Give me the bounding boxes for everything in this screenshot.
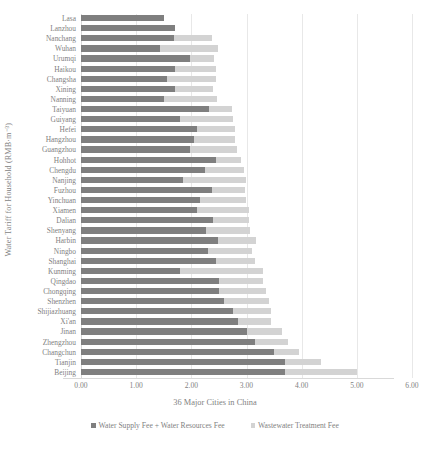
bar-row[interactable] <box>81 54 412 64</box>
bar-segment-series-2[interactable] <box>175 86 214 92</box>
bar-segment-series-2[interactable] <box>175 66 216 72</box>
bar-row[interactable] <box>81 166 412 176</box>
bar-segment-series-1[interactable] <box>81 35 174 41</box>
bar-segment-series-1[interactable] <box>81 349 274 355</box>
bar-segment-series-2[interactable] <box>180 116 232 122</box>
bar-segment-series-1[interactable] <box>81 339 255 345</box>
bar-segment-series-2[interactable] <box>206 227 250 233</box>
bar-segment-series-1[interactable] <box>81 146 190 152</box>
bar-row[interactable] <box>81 206 412 216</box>
bar-row[interactable] <box>81 24 412 34</box>
bar-row[interactable] <box>81 65 412 75</box>
bar-segment-series-2[interactable] <box>255 339 288 345</box>
bar-row[interactable] <box>81 287 412 297</box>
bar-segment-series-1[interactable] <box>81 268 180 274</box>
legend-item[interactable]: Water Supply Fee + Water Resources Fee <box>91 421 224 430</box>
bar-row[interactable] <box>81 145 412 155</box>
bar-segment-series-1[interactable] <box>81 136 194 142</box>
bar-segment-series-2[interactable] <box>212 187 245 193</box>
bar-segment-series-1[interactable] <box>81 96 164 102</box>
bar-segment-series-1[interactable] <box>81 288 219 294</box>
bar-segment-series-1[interactable] <box>81 86 175 92</box>
bar-segment-series-2[interactable] <box>247 328 283 334</box>
bar-segment-series-2[interactable] <box>167 76 217 82</box>
bar-row[interactable] <box>81 277 412 287</box>
bar-segment-series-1[interactable] <box>81 197 200 203</box>
bar-row[interactable] <box>81 317 412 327</box>
bar-segment-series-1[interactable] <box>81 258 216 264</box>
bar-row[interactable] <box>81 226 412 236</box>
bar-segment-series-1[interactable] <box>81 177 183 183</box>
bar-row[interactable] <box>81 236 412 246</box>
bar-segment-series-1[interactable] <box>81 66 175 72</box>
bar-row[interactable] <box>81 105 412 115</box>
bar-segment-series-1[interactable] <box>81 207 197 213</box>
bar-segment-series-2[interactable] <box>274 349 299 355</box>
bar-segment-series-1[interactable] <box>81 227 206 233</box>
bar-segment-series-2[interactable] <box>194 136 235 142</box>
bar-segment-series-1[interactable] <box>81 106 209 112</box>
bar-row[interactable] <box>81 257 412 267</box>
bar-segment-series-2[interactable] <box>219 278 263 284</box>
bar-row[interactable] <box>81 338 412 348</box>
bar-segment-series-1[interactable] <box>81 278 219 284</box>
bar-row[interactable] <box>81 95 412 105</box>
bar-row[interactable] <box>81 358 412 368</box>
bar-row[interactable] <box>81 125 412 135</box>
bar-segment-series-1[interactable] <box>81 308 233 314</box>
bar-segment-series-2[interactable] <box>208 248 252 254</box>
bar-row[interactable] <box>81 34 412 44</box>
bar-segment-series-2[interactable] <box>216 258 255 264</box>
bar-row[interactable] <box>81 85 412 95</box>
bar-row[interactable] <box>81 297 412 307</box>
bar-row[interactable] <box>81 135 412 145</box>
bar-segment-series-1[interactable] <box>81 157 216 163</box>
bar-segment-series-2[interactable] <box>190 55 215 61</box>
bar-segment-series-2[interactable] <box>216 157 241 163</box>
bar-row[interactable] <box>81 44 412 54</box>
bar-row[interactable] <box>81 176 412 186</box>
bar-row[interactable] <box>81 267 412 277</box>
bar-row[interactable] <box>81 14 412 24</box>
bar-segment-series-1[interactable] <box>81 237 218 243</box>
bar-row[interactable] <box>81 247 412 257</box>
bar-row[interactable] <box>81 327 412 337</box>
bar-segment-series-1[interactable] <box>81 15 164 21</box>
bar-segment-series-1[interactable] <box>81 167 205 173</box>
bar-segment-series-1[interactable] <box>81 45 160 51</box>
bar-segment-series-1[interactable] <box>81 76 167 82</box>
bar-segment-series-1[interactable] <box>81 55 190 61</box>
bar-segment-series-2[interactable] <box>213 217 249 223</box>
bar-row[interactable] <box>81 307 412 317</box>
bar-segment-series-2[interactable] <box>218 237 257 243</box>
bar-segment-series-1[interactable] <box>81 217 213 223</box>
bar-segment-series-2[interactable] <box>180 268 263 274</box>
bar-segment-series-2[interactable] <box>224 298 268 304</box>
bar-row[interactable] <box>81 75 412 85</box>
bar-segment-series-1[interactable] <box>81 328 247 334</box>
bar-segment-series-2[interactable] <box>285 359 321 365</box>
bar-segment-series-2[interactable] <box>197 207 249 213</box>
bar-segment-series-2[interactable] <box>174 35 213 41</box>
bar-segment-series-1[interactable] <box>81 369 285 375</box>
bar-segment-series-2[interactable] <box>183 177 246 183</box>
bar-segment-series-2[interactable] <box>219 288 266 294</box>
bar-segment-series-1[interactable] <box>81 359 285 365</box>
bar-row[interactable] <box>81 115 412 125</box>
bar-row[interactable] <box>81 196 412 206</box>
bar-segment-series-2[interactable] <box>209 106 232 112</box>
bar-segment-series-2[interactable] <box>238 318 271 324</box>
bar-segment-series-1[interactable] <box>81 318 238 324</box>
bar-row[interactable] <box>81 368 412 378</box>
bar-segment-series-2[interactable] <box>233 308 272 314</box>
bar-row[interactable] <box>81 186 412 196</box>
bar-segment-series-2[interactable] <box>200 197 247 203</box>
bar-segment-series-2[interactable] <box>205 167 244 173</box>
bar-segment-series-1[interactable] <box>81 298 224 304</box>
bar-row[interactable] <box>81 348 412 358</box>
bar-segment-series-1[interactable] <box>81 248 208 254</box>
bar-segment-series-2[interactable] <box>190 146 237 152</box>
bar-segment-series-2[interactable] <box>197 126 236 132</box>
bar-segment-series-1[interactable] <box>81 187 212 193</box>
bar-segment-series-2[interactable] <box>285 369 357 375</box>
